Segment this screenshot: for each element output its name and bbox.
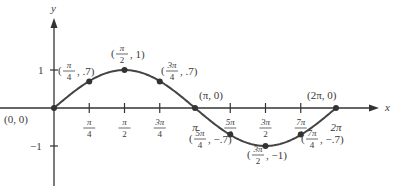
svg-text:4: 4 <box>67 72 72 82</box>
origin-label: (0, 0) <box>4 113 28 126</box>
data-point <box>157 78 163 84</box>
svg-text:5π: 5π <box>226 117 236 127</box>
y-axis-arrow-icon <box>51 18 58 28</box>
svg-text:π: π <box>67 60 72 70</box>
svg-text:, −.7): , −.7) <box>208 133 232 146</box>
svg-text:3π: 3π <box>166 60 177 70</box>
point-label: (3π4, .7) <box>161 60 198 82</box>
svg-text:(: ( <box>247 148 251 161</box>
svg-text:2π: 2π <box>330 121 342 133</box>
x-tick-label: 2π <box>330 121 342 133</box>
svg-text:4: 4 <box>170 72 175 82</box>
svg-text:2: 2 <box>256 156 261 166</box>
data-point <box>86 78 92 84</box>
x-tick-label: π4 <box>83 117 95 139</box>
y-axis-label: y <box>50 2 56 14</box>
svg-text:(: ( <box>161 64 165 77</box>
data-point <box>333 105 339 111</box>
svg-text:7π: 7π <box>307 128 317 138</box>
sine-graph-canvas: y x 1 −1 π4π23π4π5π43π27π42π (0, 0) (π, … <box>0 0 409 190</box>
svg-text:4: 4 <box>87 129 92 139</box>
point-label: (π2, 1) <box>111 43 145 65</box>
svg-text:π: π <box>120 43 125 53</box>
svg-text:4: 4 <box>198 140 203 150</box>
svg-text:, .7): , .7) <box>77 65 95 78</box>
two-pi-point-label: (2π, 0) <box>307 89 337 102</box>
sine-graph: y x 1 −1 π4π23π4π5π43π27π42π (0, 0) (π, … <box>0 0 409 190</box>
svg-text:(: ( <box>58 64 62 77</box>
svg-text:2: 2 <box>120 55 125 65</box>
x-axis-arrow-icon <box>369 105 379 112</box>
svg-text:(: ( <box>301 132 305 145</box>
svg-text:2: 2 <box>263 129 268 139</box>
svg-text:7π: 7π <box>296 117 306 127</box>
svg-text:(: ( <box>111 47 115 60</box>
y-tick-label-1: 1 <box>38 64 44 76</box>
svg-text:, .7): , .7) <box>180 65 198 78</box>
svg-text:(: ( <box>189 132 193 145</box>
data-point <box>192 105 198 111</box>
x-tick-label: 3π2 <box>260 117 272 139</box>
pi-point-label: (π, 0) <box>199 89 223 102</box>
svg-text:5π: 5π <box>195 128 205 138</box>
data-point <box>51 105 57 111</box>
svg-text:π: π <box>122 117 127 127</box>
svg-text:3π: 3π <box>252 144 263 154</box>
svg-text:π: π <box>87 117 92 127</box>
svg-text:4: 4 <box>310 140 315 150</box>
svg-text:3π: 3π <box>154 117 165 127</box>
x-axis-label: x <box>384 101 390 113</box>
svg-text:, −1): , −1) <box>266 149 287 162</box>
svg-text:, 1): , 1) <box>130 48 145 61</box>
x-tick-label: π2 <box>119 117 131 139</box>
svg-text:2: 2 <box>122 129 127 139</box>
svg-text:3π: 3π <box>260 117 271 127</box>
svg-text:4: 4 <box>158 129 163 139</box>
y-tick-label-neg1: −1 <box>30 140 42 152</box>
data-point <box>122 67 128 73</box>
svg-text:, −.7): , −.7) <box>320 133 344 146</box>
x-tick-label: 3π4 <box>154 117 166 139</box>
